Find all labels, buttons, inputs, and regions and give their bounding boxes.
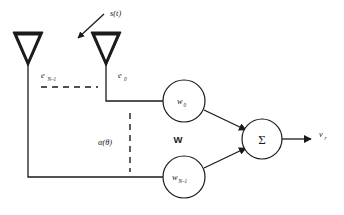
beamformer-diagram: s(t) e N–1 e 0 α(θ) (0, 0, 344, 215)
element-signal-subscript: N–1 (47, 76, 57, 82)
steering-vector-label: α(θ) (98, 138, 112, 147)
weight-node-n-minus-1-subscript: N–1 (178, 178, 188, 184)
wire-elementN-to-weightN (28, 78, 163, 177)
element-signal-symbol: e (118, 71, 122, 80)
summation-symbol: Σ (258, 132, 266, 147)
output-label: v r (319, 130, 328, 141)
element-signal-symbol: e (41, 71, 45, 80)
element-signal-label-n-minus-1: e N–1 (41, 71, 57, 82)
antenna-element-0 (91, 32, 121, 78)
weight-node-n-minus-1-symbol: w (172, 173, 178, 182)
summation-node: Σ (242, 119, 282, 159)
figure-canvas: s(t) e N–1 e 0 α(θ) (0, 0, 344, 215)
weight-node-n-minus-1: w N–1 (163, 156, 205, 198)
element-signal-subscript: 0 (124, 76, 127, 82)
weight-vector-label: W (174, 134, 183, 145)
output-subscript: r (325, 135, 328, 141)
element-signal-label-0: e 0 (118, 71, 127, 82)
weight-node-0-symbol: w (177, 97, 183, 106)
arrow-weight0-to-sum (204, 110, 246, 130)
steering-vector-text: α(θ) (98, 138, 112, 147)
weight-node-0: w 0 (163, 80, 205, 122)
incident-signal-label: s(t) (110, 9, 121, 18)
wire-element0-to-weight0 (106, 78, 163, 101)
arrow-weightN-to-sum (204, 148, 246, 168)
antenna-element-n-minus-1 (13, 32, 43, 78)
output-symbol: v (319, 130, 323, 139)
weight-node-0-subscript: 0 (184, 102, 187, 108)
